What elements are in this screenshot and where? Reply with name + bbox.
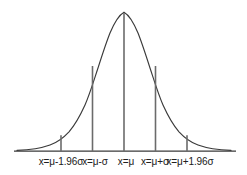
axis-label-mean: x=μ xyxy=(118,156,134,167)
distribution-plot-svg xyxy=(0,0,247,175)
axis-label-minus-1p96-sigma: x=μ-1.96σ xyxy=(39,156,84,167)
normal-distribution-figure: x=μ-1.96σ x=μ-σ x=μ x=μ+σ x=μ+1.96σ xyxy=(0,0,247,175)
axis-label-minus-1-sigma: x=μ-σ xyxy=(82,156,108,167)
axis-label-plus-1p96-sigma: x=μ+1.96σ xyxy=(166,156,213,167)
axis-label-plus-1-sigma: x=μ+σ xyxy=(141,156,169,167)
